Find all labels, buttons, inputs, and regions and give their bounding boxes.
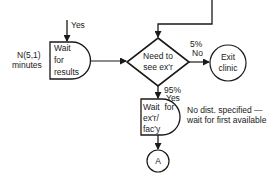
decision-line1: Need to <box>143 51 173 61</box>
wait-examiner-line2: ex'r/ <box>143 113 159 123</box>
note-line2: wait for first available <box>186 115 267 125</box>
wait-results-line1: Wait <box>54 43 71 53</box>
incoming-yes-label: Yes <box>71 20 85 30</box>
distribution-label-line1: N(5,1) <box>17 50 41 60</box>
wait-results-line2: for <box>54 55 64 65</box>
wait-examiner-line1: Wait for <box>143 102 174 112</box>
wait-examiner-line3: fac'y <box>143 124 161 134</box>
exit-clinic-line1: Exit <box>221 52 236 62</box>
no-branch-label: No <box>192 48 203 58</box>
connector-a-label: A <box>155 156 161 166</box>
decision-line2: see ex'r <box>143 62 173 72</box>
wait-results-line3: results <box>54 67 79 77</box>
distribution-label-line2: minutes <box>12 60 42 70</box>
note-line1: No dist. specified — <box>187 105 263 115</box>
flowchart-diagram: Yes N(5,1) minutes Wait for results Need… <box>0 0 280 184</box>
exit-clinic-line2: clinic <box>219 63 239 73</box>
incoming-top-path <box>158 0 212 37</box>
